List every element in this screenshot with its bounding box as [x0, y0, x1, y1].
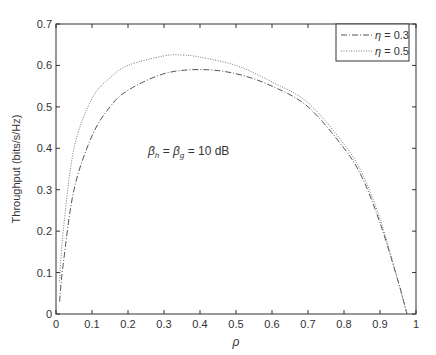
legend-label-eta-0-5: η = 0.5 [375, 45, 409, 57]
y-tick-label: 0.4 [37, 142, 52, 154]
annotation-beta: βh = βg = 10 dB [147, 144, 229, 160]
x-tick-label: 0.1 [84, 318, 99, 330]
y-axis-label: Throughput (bits/s/Hz) [10, 115, 22, 224]
x-tick-label: 1 [413, 318, 419, 330]
x-tick-label: 0.8 [336, 318, 351, 330]
y-tick-label: 0.7 [37, 18, 52, 30]
x-tick-label: 0.2 [120, 318, 135, 330]
y-tick-label: 0.6 [37, 59, 52, 71]
throughput-chart: 00.10.20.30.40.50.60.70.80.91 00.10.20.3… [0, 0, 436, 355]
y-tick-label: 0.2 [37, 225, 52, 237]
x-tick-label: 0.7 [300, 318, 315, 330]
x-axis-label: ρ [232, 335, 240, 349]
x-tick-label: 0.5 [228, 318, 243, 330]
legend-label-eta-0-3: η = 0.3 [375, 29, 409, 41]
x-tick-label: 0.3 [156, 318, 171, 330]
y-tick-label: 0 [46, 308, 52, 320]
x-tick-label: 0.6 [264, 318, 279, 330]
x-tick-label: 0 [53, 318, 59, 330]
x-tick-label: 0.9 [372, 318, 387, 330]
plot-area [56, 24, 416, 314]
y-tick-label: 0.5 [37, 101, 52, 113]
legend: η = 0.3 η = 0.5 [336, 24, 409, 61]
x-tick-label: 0.4 [192, 318, 207, 330]
y-tick-label: 0.3 [37, 184, 52, 196]
y-tick-label: 0.1 [37, 267, 52, 279]
